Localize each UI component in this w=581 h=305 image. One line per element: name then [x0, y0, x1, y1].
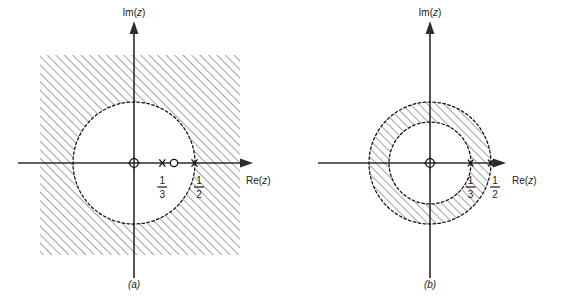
panel-b-real-prefix: Re( — [512, 175, 529, 186]
panel-b: 1 3 1 2 Im(z) Re(z) (b) — [318, 7, 536, 290]
panel-b-real-suffix: ) — [533, 175, 536, 186]
panel-b-real-axis-arrow — [493, 159, 506, 168]
panel-a-one-third-denominator: 3 — [160, 189, 166, 200]
panel-a-one-half-denominator: 2 — [196, 189, 202, 200]
panel-b-real-axis-label: Re(z) — [512, 175, 536, 186]
panel-a-imag-suffix: ) — [142, 7, 145, 18]
panel-a-real-axis-label: Re(z) — [246, 175, 270, 186]
panel-b-imag-prefix: Im( — [419, 7, 434, 18]
panel-b-imag-axis-label: Im(z) — [419, 7, 442, 18]
panel-b-label-one-half: 1 2 — [490, 175, 500, 200]
panel-b-imag-suffix: ) — [438, 7, 441, 18]
panel-a-imag-prefix: Im( — [123, 7, 138, 18]
panel-a-real-suffix: ) — [267, 175, 270, 186]
panel-a-real-axis-arrow — [240, 159, 253, 168]
panel-a-imag-axis-arrow — [130, 21, 139, 34]
panel-a-zero-marker — [170, 159, 177, 166]
panel-a-real-prefix: Re( — [246, 175, 263, 186]
panel-a-caption: (a) — [128, 279, 140, 290]
panel-b-one-half-denominator: 2 — [492, 189, 498, 200]
panel-a-one-third-numerator: 1 — [160, 175, 166, 186]
panel-b-caption: (b) — [424, 279, 436, 290]
panel-a-imag-axis-label: Im(z) — [123, 7, 146, 18]
figure-canvas: 1 3 1 2 Im(z) Re(z) (a) — [0, 0, 581, 305]
z-plane-roc-figure: 1 3 1 2 Im(z) Re(z) (a) — [0, 0, 581, 305]
panel-b-one-third-numerator: 1 — [468, 175, 474, 186]
panel-b-one-third-denominator: 3 — [468, 189, 474, 200]
panel-a-one-half-numerator: 1 — [196, 175, 202, 186]
panel-a: 1 3 1 2 Im(z) Re(z) (a) — [18, 7, 270, 290]
panel-b-imag-axis-arrow — [426, 21, 435, 34]
panel-a-roc-shading — [40, 55, 240, 255]
panel-b-one-half-numerator: 1 — [492, 175, 498, 186]
